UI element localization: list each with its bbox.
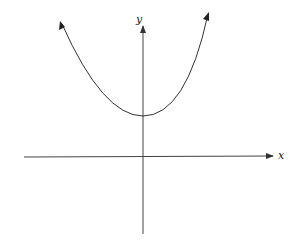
x-axis — [24, 156, 273, 157]
parabola-chart — [0, 0, 301, 245]
right-arrow-icon — [203, 12, 209, 21]
y-axis-label: y — [136, 14, 142, 25]
parabola-curve — [62, 14, 208, 116]
x-axis-label: x — [278, 150, 284, 161]
